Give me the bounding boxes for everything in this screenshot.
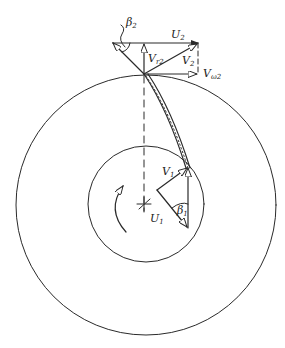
vr2-label: Vr2 — [148, 52, 164, 66]
rotation-arrow-icon — [115, 186, 126, 232]
beta2-leader — [121, 25, 125, 47]
impeller-diagram: β2 U2 Vr2 V2 Vω2 V1 U1 β1 — [0, 0, 285, 348]
center-cross-icon — [137, 197, 151, 211]
vw2-label: Vω2 — [203, 67, 222, 81]
v2-label: V2 — [182, 54, 195, 68]
beta1-label: β1 — [176, 204, 188, 218]
beta2-label: β2 — [125, 16, 137, 30]
u1-label: U1 — [150, 212, 164, 226]
u2-label: U2 — [171, 28, 185, 42]
v1-label: V1 — [162, 165, 174, 179]
outer-impeller-circle — [16, 75, 276, 335]
impeller-blade — [144, 74, 190, 168]
